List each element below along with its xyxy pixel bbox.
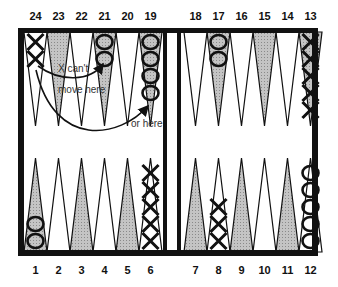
point-2[interactable] <box>47 158 70 252</box>
backgammon-board: X can't move here or here <box>0 0 338 287</box>
point-3[interactable] <box>70 158 93 252</box>
annotation-cant-move-1: X can't <box>58 63 88 74</box>
point-15[interactable] <box>253 32 276 126</box>
frame-bottom <box>18 250 318 256</box>
point-5[interactable] <box>116 158 139 252</box>
annotation-cant-move-2: move here <box>58 84 106 95</box>
bar-left-edge <box>163 28 167 256</box>
point-24[interactable] <box>24 32 47 126</box>
point-23[interactable] <box>47 32 70 126</box>
point-10[interactable] <box>253 158 276 252</box>
point-14[interactable] <box>276 32 299 126</box>
bar-right-edge <box>177 28 181 256</box>
annotation-or-here: or here <box>131 118 163 129</box>
point-18[interactable] <box>184 32 207 126</box>
point-4[interactable] <box>93 158 116 252</box>
point-7[interactable] <box>184 158 207 252</box>
point-16[interactable] <box>230 32 253 126</box>
point-11[interactable] <box>276 158 299 252</box>
frame-top <box>18 28 318 33</box>
point-22[interactable] <box>70 32 93 126</box>
frame-left <box>18 28 24 256</box>
point-20[interactable] <box>116 32 139 126</box>
point-9[interactable] <box>230 158 253 252</box>
